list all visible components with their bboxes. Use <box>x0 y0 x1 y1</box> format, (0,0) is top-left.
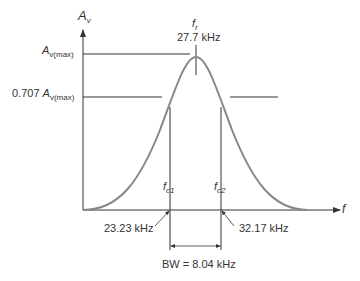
avmax-label: Av(max) <box>42 44 74 59</box>
fc1-label: fc1 <box>163 180 175 195</box>
half-power-label: 0.707 Av(max) <box>12 87 74 102</box>
bandwidth-label: BW = 8.04 kHz <box>162 258 236 270</box>
fc2-label: fc2 <box>214 180 226 195</box>
x-axis-label: f <box>342 202 345 216</box>
fr-label: fr <box>192 17 198 32</box>
fc1-value: 23.23 kHz <box>104 222 154 234</box>
bandpass-diagram: Av f Av(max) 0.707 Av(max) fr 27.7 kHz f… <box>0 0 360 281</box>
fr-value: 27.7 kHz <box>177 31 220 43</box>
y-axis-label: Av <box>78 8 91 25</box>
fc2-value: 32.17 kHz <box>239 222 289 234</box>
response-curve <box>83 57 308 210</box>
